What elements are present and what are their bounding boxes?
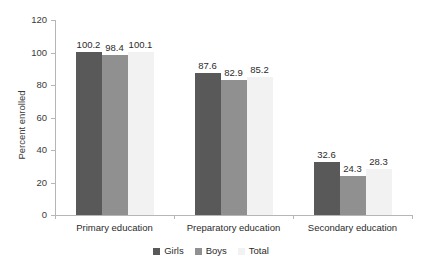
bar-group-bars: 32.624.328.3: [293, 20, 412, 215]
legend-item[interactable]: Girls: [153, 245, 184, 257]
x-axis-category-label: Primary education: [55, 221, 174, 234]
bar-value-label: 100.2: [77, 39, 101, 51]
bar-value-label: 85.2: [250, 64, 269, 76]
bar-group: 32.624.328.3: [293, 20, 412, 215]
legend-item-label: Girls: [164, 245, 184, 257]
bar[interactable]: [128, 52, 154, 215]
bar-slot: 32.6: [314, 20, 340, 215]
bar-value-label: 24.3: [343, 163, 362, 175]
x-axis-tick-mark: [55, 215, 56, 219]
y-axis-tick-label: 120: [31, 13, 47, 26]
legend-swatch-icon: [238, 248, 245, 255]
y-axis-tick-label: 60: [36, 111, 47, 124]
chart-legend: GirlsBoysTotal: [0, 245, 422, 257]
bar-slot: 85.2: [247, 20, 273, 215]
bar-value-label: 98.4: [105, 42, 124, 54]
bar[interactable]: [76, 52, 102, 215]
y-axis-tick-label: 20: [36, 176, 47, 189]
bar[interactable]: [247, 77, 273, 215]
bar-group-bars: 87.682.985.2: [174, 20, 293, 215]
bar-chart: Percent enrolled 120100806040200 100.298…: [0, 0, 422, 263]
bar[interactable]: [340, 176, 366, 215]
y-axis-tick-label: 40: [36, 143, 47, 156]
bar-slot: 28.3: [366, 20, 392, 215]
legend-item[interactable]: Boys: [195, 245, 227, 257]
legend-item-label: Boys: [206, 245, 227, 257]
legend-item-label: Total: [249, 245, 269, 257]
y-axis-tick-label: 80: [36, 78, 47, 91]
bar-value-label: 87.6: [198, 60, 217, 72]
x-axis-tick-mark: [174, 215, 175, 219]
bar[interactable]: [314, 162, 340, 215]
y-axis-tick-label: 100: [31, 46, 47, 59]
bar-group: 100.298.4100.1: [55, 20, 174, 215]
bar-slot: 98.4: [102, 20, 128, 215]
x-axis-category-label: Preparatory education: [174, 221, 293, 234]
x-axis-tick-mark: [412, 215, 413, 219]
bar-slot: 82.9: [221, 20, 247, 215]
bar[interactable]: [221, 80, 247, 215]
bar-value-label: 28.3: [369, 156, 388, 168]
bar-value-label: 82.9: [224, 67, 243, 79]
bar-group: 87.682.985.2: [174, 20, 293, 215]
bar[interactable]: [366, 169, 392, 215]
bar-slot: 100.1: [128, 20, 154, 215]
bar-slot: 24.3: [340, 20, 366, 215]
bar-value-label: 32.6: [317, 149, 336, 161]
x-axis-category-label: Secondary education: [293, 221, 412, 234]
chart-title-cropped: [28, 0, 258, 3]
y-axis-tick-label: 0: [42, 208, 47, 221]
bar-value-label: 100.1: [129, 39, 153, 51]
plot-area: 100.298.4100.187.682.985.232.624.328.3: [55, 20, 412, 215]
x-axis-line: [55, 215, 412, 216]
bar-slot: 87.6: [195, 20, 221, 215]
x-axis-tick-mark: [293, 215, 294, 219]
legend-swatch-icon: [195, 248, 202, 255]
bar[interactable]: [195, 73, 221, 215]
bar-group-bars: 100.298.4100.1: [55, 20, 174, 215]
bar-slot: 100.2: [76, 20, 102, 215]
legend-swatch-icon: [153, 248, 160, 255]
legend-item[interactable]: Total: [238, 245, 269, 257]
y-axis-title: Percent enrolled: [15, 28, 29, 223]
bar[interactable]: [102, 55, 128, 215]
